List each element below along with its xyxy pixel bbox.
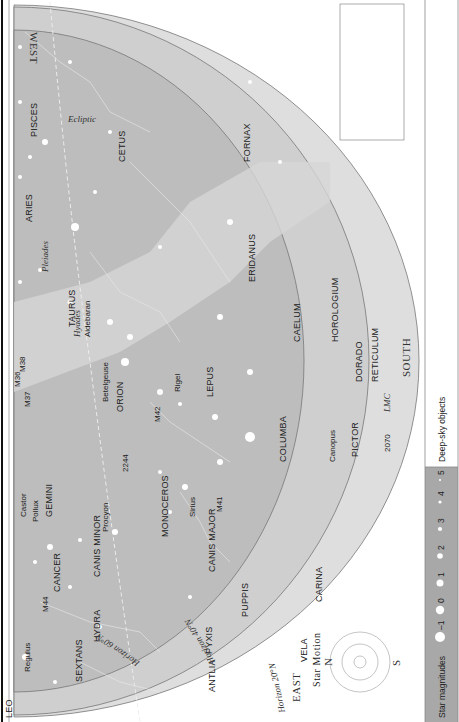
label-columba: COLUMBA	[278, 416, 288, 462]
label-gemini: GEMINI	[44, 484, 54, 517]
label-caelum: CAELUM	[292, 303, 302, 342]
obj-lmc: LMC	[382, 392, 392, 413]
mag-label: 2	[436, 545, 446, 550]
west-label: WEST	[28, 32, 40, 64]
label-cancer: CANCER	[52, 552, 62, 592]
star-magnitudes-label: Star magnitudes	[437, 656, 447, 718]
label-orion: ORION	[115, 381, 125, 412]
deep-sky-label: Deep-sky objects	[437, 397, 447, 462]
obj-2070: 2070	[383, 434, 392, 452]
star-betelgeuse: Betelgeuse	[101, 361, 110, 402]
east-label: EAST	[290, 673, 302, 703]
star-motion-diagram: Star Motion N S	[311, 632, 402, 692]
label-lepus: LEPUS	[205, 366, 215, 397]
horizon-20-label: Horizon 20°N	[266, 661, 287, 714]
obj-m44: M44	[41, 596, 50, 612]
star-chart-page: WEST SOUTH EAST PISCES CETUS ARIES TAURU…	[0, 0, 459, 722]
label-pictor: PICTOR	[350, 422, 360, 457]
star-motion-title: Star Motion	[311, 632, 322, 687]
label-cetus: CETUS	[117, 130, 127, 162]
star-rigel: Rigel	[173, 374, 182, 392]
obj-m36: M36	[13, 371, 22, 387]
star-regulus: Regulus	[23, 643, 32, 672]
mag-label: 0	[436, 598, 446, 603]
south-label: SOUTH	[400, 338, 412, 377]
ecliptic-label: Ecliptic	[67, 114, 96, 124]
obj-m42: M42	[153, 406, 162, 422]
star-pollux: Pollux	[31, 500, 40, 522]
label-pisces: PISCES	[29, 103, 39, 137]
label-puppis: PUPPIS	[240, 583, 250, 617]
label-sextans: SEXTANS	[74, 639, 84, 682]
obj-m41: M41	[215, 496, 224, 512]
star-aldebaran: Aldebaran	[83, 301, 92, 337]
obj-pleiades: Pleiades	[40, 241, 50, 273]
label-carina: CARINA	[314, 567, 324, 602]
star-canopus: Canopus	[328, 430, 337, 462]
mag-label: –1	[436, 620, 446, 630]
label-leo: LEO	[4, 699, 14, 718]
label-monoceros: MONOCEROS	[160, 475, 170, 537]
label-reticulum: RETICULUM	[370, 328, 380, 382]
mag-label: 4	[436, 491, 446, 496]
label-eridanus: ERIDANUS	[247, 234, 257, 282]
label-canis-major: CANIS MAJOR	[207, 508, 217, 572]
obj-m38: M38	[18, 356, 27, 372]
legend-strip: Star magnitudes –1 0 1 2 3 4 5 Deep-sky …	[425, 0, 458, 722]
mag-label: 5	[436, 470, 446, 475]
star-castor: Castor	[19, 493, 28, 517]
label-horologium: HOROLOGIUM	[330, 277, 340, 342]
star-sirius: Sirius	[188, 497, 197, 517]
obj-m37: M37	[23, 391, 32, 407]
motion-s-label: S	[390, 659, 402, 666]
motion-n-label: N	[322, 658, 334, 666]
label-aries: ARIES	[24, 194, 34, 222]
obj-2244: 2244	[121, 454, 130, 472]
rotated-page: WEST SOUTH EAST PISCES CETUS ARIES TAURU…	[0, 0, 459, 722]
obj-hyades: Hyades	[72, 310, 82, 338]
star-procyon: Procyon	[101, 503, 110, 532]
label-dorado: DORADO	[354, 341, 364, 382]
mag-label: 3	[436, 518, 446, 523]
time-table	[340, 4, 404, 140]
label-vela: VELA	[299, 638, 309, 662]
mag-label: 1	[436, 572, 446, 577]
label-fornax: FORNAX	[242, 123, 252, 162]
